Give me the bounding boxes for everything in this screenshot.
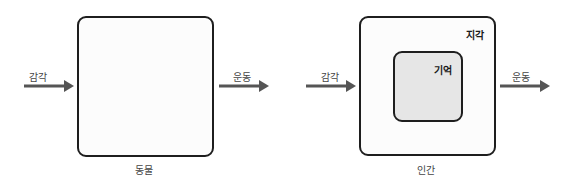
animal-box [77, 16, 214, 157]
memory-box: 기억 [393, 51, 463, 122]
right-output-arrow-icon [500, 79, 552, 93]
perception-label: 지각 [466, 27, 484, 42]
left-output-arrow-icon [219, 79, 271, 93]
memory-label: 기억 [434, 62, 452, 77]
human-caption: 인간 [417, 162, 435, 177]
right-input-arrow-icon [306, 79, 358, 93]
animal-caption: 동물 [135, 162, 153, 177]
left-input-arrow-icon [24, 79, 76, 93]
